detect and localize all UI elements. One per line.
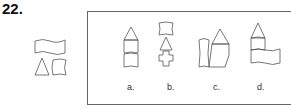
option-b-figure[interactable] <box>156 21 176 71</box>
option-c-label: c. <box>213 82 220 92</box>
option-c-figure[interactable] <box>197 25 237 70</box>
given-pieces-figure <box>30 38 90 88</box>
option-a-figure[interactable] <box>121 25 141 70</box>
option-d-figure[interactable] <box>248 21 283 71</box>
question-number: 22. <box>2 0 23 17</box>
option-a-label: a. <box>127 82 135 92</box>
option-d-label: d. <box>257 82 265 92</box>
option-b-label: b. <box>167 82 175 92</box>
